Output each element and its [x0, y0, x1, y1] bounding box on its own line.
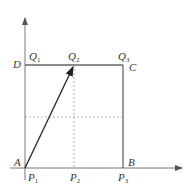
label-q2: Q2 [68, 51, 79, 64]
label-q3: Q3 [118, 51, 129, 64]
diagram-canvas [0, 0, 186, 185]
label-p1: P1 [28, 172, 38, 185]
label-p2: P2 [70, 172, 80, 185]
diagram: D Q1 Q2 Q3 C A B P1 P2 P3 [0, 0, 186, 185]
label-q1: Q1 [29, 51, 40, 64]
vector-a-q2 [25, 67, 73, 168]
label-b: B [128, 157, 135, 168]
label-p3: P3 [118, 172, 128, 185]
label-c: C [129, 62, 136, 73]
label-a: A [14, 157, 21, 168]
label-d: D [13, 59, 21, 70]
